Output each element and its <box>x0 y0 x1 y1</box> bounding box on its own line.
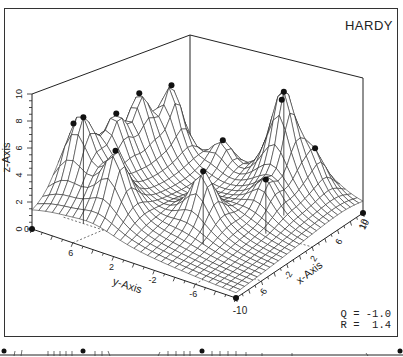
y-tick-label: 6 <box>68 248 73 258</box>
y-tick-label: -2 <box>148 275 156 285</box>
z-tick-label: 8 <box>14 118 24 123</box>
y-tick-label: 2 <box>109 262 114 272</box>
y-axis-label: y-Axis <box>111 275 144 296</box>
x-tick-label: 6 <box>333 237 344 246</box>
data-point-marker-icon <box>113 148 119 154</box>
x-tick-label: -6 <box>256 287 269 299</box>
x-axis-label: x-Axis <box>294 258 325 286</box>
z-tick-label: 2 <box>14 199 24 204</box>
z-tick-label: 4 <box>14 172 24 177</box>
z-axis-label: z-Axis <box>0 142 12 172</box>
z-tick-label: 0 <box>14 226 24 231</box>
data-point-marker-icon <box>29 226 35 232</box>
data-point-marker-icon <box>233 295 239 301</box>
x-tick-label: -2 <box>282 270 295 282</box>
bottom-strip <box>0 347 403 357</box>
point-marker-icon <box>200 349 205 354</box>
data-point-marker-icon <box>360 210 366 216</box>
data-point-marker-icon <box>70 121 76 127</box>
chart-title: HARDY <box>345 18 393 33</box>
surface-plot: 0246810z-Axis62-2-6y-Axis-6-22610x-Axis0… <box>0 0 403 357</box>
z-tick-label: 6 <box>14 145 24 150</box>
data-point-marker-icon <box>312 145 318 151</box>
data-point-marker-icon <box>113 110 119 116</box>
data-point-marker-icon <box>220 137 226 143</box>
data-point-marker-icon <box>263 177 269 183</box>
point-marker-icon <box>81 349 86 354</box>
data-point-marker-icon <box>200 168 206 174</box>
z-tick-label: 10 <box>14 89 24 99</box>
corner-label: 0 <box>24 224 29 234</box>
point-marker-icon <box>2 349 7 354</box>
corner-label: -10 <box>233 305 248 316</box>
data-point-marker-icon <box>168 82 174 88</box>
data-point-marker-icon <box>279 97 285 103</box>
point-marker-icon <box>398 349 403 354</box>
data-point-marker-icon <box>80 114 86 120</box>
data-point-marker-icon <box>136 90 142 96</box>
parameter-legend: Q = -1.0 R = 1.4 <box>341 309 391 331</box>
data-point-marker-icon <box>281 89 287 95</box>
y-tick-label: -6 <box>189 289 197 299</box>
